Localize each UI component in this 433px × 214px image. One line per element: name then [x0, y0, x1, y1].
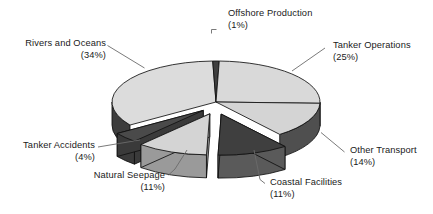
- pie-slice-top-tanker-operations: [216, 61, 320, 103]
- slice-label-offshore-production: Offshore Production (1%): [228, 8, 312, 31]
- slice-label-coastal-facilities-percent: (11%): [270, 189, 342, 201]
- slice-label-other-transport-percent: (14%): [350, 157, 417, 169]
- slice-label-coastal-facilities-name: Coastal Facilities: [270, 177, 342, 187]
- slice-label-offshore-production-percent: (1%): [228, 20, 312, 32]
- leader-line-tanker-operations: [292, 48, 325, 71]
- leader-line-rivers-and-oceans: [108, 46, 145, 69]
- leader-line-other-transport: [321, 133, 345, 153]
- slice-label-tanker-accidents: Tanker Accidents (4%): [2, 140, 95, 163]
- slice-label-tanker-operations: Tanker Operations (25%): [333, 40, 411, 63]
- pie-slices-layer: [112, 61, 320, 178]
- slice-label-offshore-production-name: Offshore Production: [228, 8, 312, 18]
- slice-label-tanker-accidents-name: Tanker Accidents: [23, 140, 95, 150]
- slice-label-rivers-and-oceans: Rivers and Oceans (34%): [8, 38, 106, 61]
- slice-label-other-transport: Other Transport (14%): [350, 145, 417, 168]
- slice-label-natural-seepage-name: Natural Seepage: [94, 170, 165, 180]
- slice-label-rivers-and-oceans-name: Rivers and Oceans: [25, 38, 106, 48]
- slice-label-coastal-facilities: Coastal Facilities (11%): [270, 177, 342, 200]
- slice-label-rivers-and-oceans-percent: (34%): [8, 50, 106, 62]
- slice-label-tanker-accidents-percent: (4%): [2, 152, 95, 164]
- slice-label-tanker-operations-percent: (25%): [333, 52, 411, 64]
- slice-label-tanker-operations-name: Tanker Operations: [333, 40, 411, 50]
- slice-label-natural-seepage-percent: (11%): [66, 182, 165, 194]
- pie-chart: Offshore Production (1%) Rivers and Ocea…: [0, 0, 433, 214]
- leader-line-offshore-production: [212, 30, 217, 34]
- slice-label-other-transport-name: Other Transport: [350, 145, 417, 155]
- slice-label-natural-seepage: Natural Seepage (11%): [66, 170, 165, 193]
- pie-chart-canvas: [0, 0, 433, 214]
